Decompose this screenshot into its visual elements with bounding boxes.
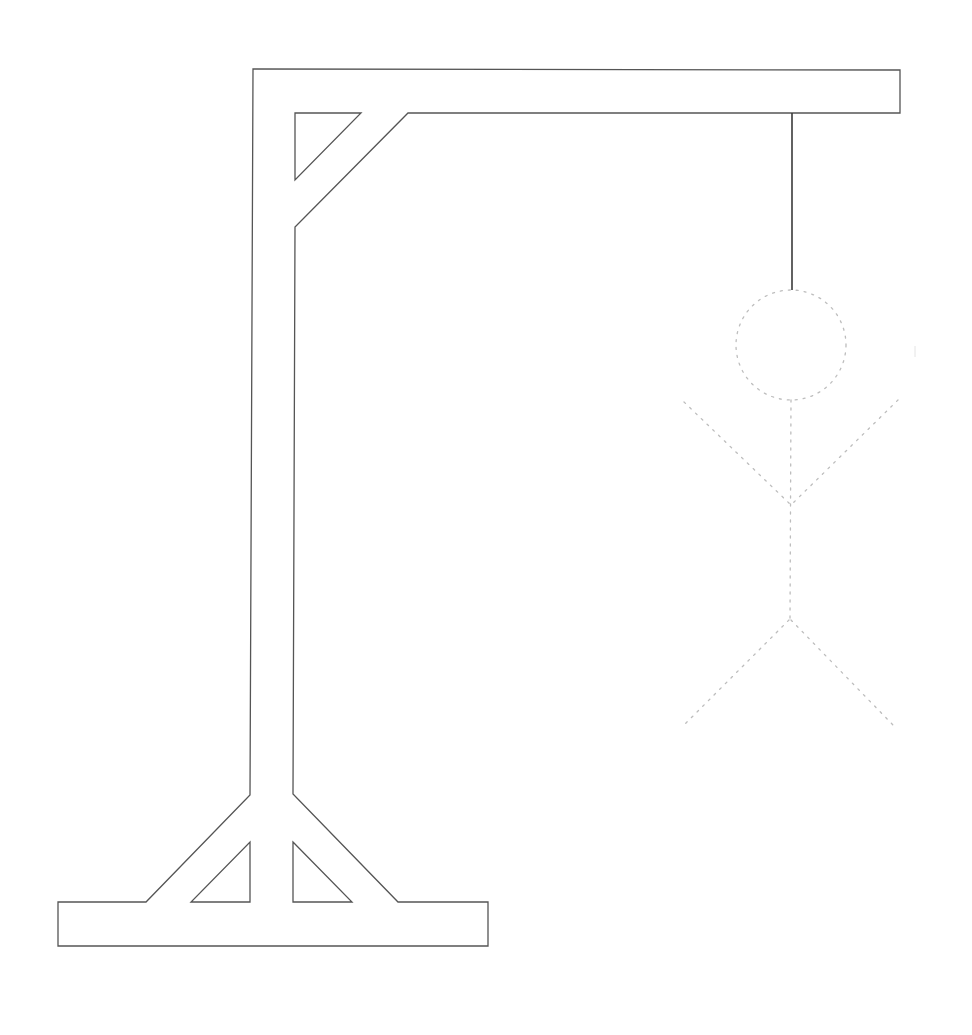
- hangman-figure: [682, 290, 898, 727]
- figure-right-arm: [791, 400, 898, 505]
- base-right-brace-triangle: [293, 842, 352, 902]
- base-left-brace-triangle: [191, 842, 250, 902]
- figure-left-arm: [684, 402, 791, 505]
- figure-head: [736, 290, 846, 400]
- gallows-frame: [58, 69, 900, 946]
- hangman-canvas: [0, 0, 972, 1035]
- gallows: [58, 69, 900, 946]
- figure-torso: [790, 400, 791, 620]
- figure-left-leg: [682, 620, 789, 727]
- figure-right-leg: [791, 620, 893, 725]
